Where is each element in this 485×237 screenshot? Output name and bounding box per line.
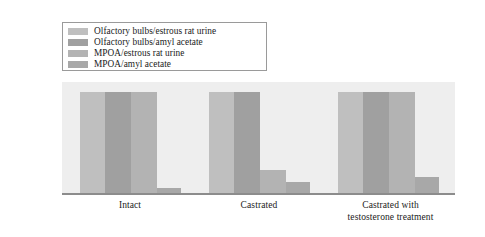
legend-swatch-icon-3 xyxy=(68,61,88,68)
x-axis-label-intact: Intact xyxy=(70,200,190,212)
bar-castrated-testosterone-mpoa-amyl-acetate xyxy=(415,177,439,193)
legend-item-olfactory-bulbs-estrous-rat-urine: Olfactory bulbs/estrous rat urine xyxy=(68,26,262,37)
bar-group-castrated-with-testosterone-treatment xyxy=(338,82,439,193)
bar-group-castrated xyxy=(209,82,310,193)
x-axis-label-intact-line-1: Intact xyxy=(70,200,190,212)
legend-swatch-icon-1 xyxy=(68,39,88,46)
bar-castrated-testosterone-olfactory-bulbs-estrous-rat-urine xyxy=(338,92,363,193)
x-axis-baseline xyxy=(62,193,455,195)
bar-intact-mpoa-estrous-rat-urine xyxy=(131,92,157,193)
bar-intact-olfactory-bulbs-estrous-rat-urine xyxy=(80,92,105,193)
legend: Olfactory bulbs/estrous rat urine Olfact… xyxy=(62,22,267,71)
legend-label-3: MPOA/amyl acetate xyxy=(94,59,171,70)
x-axis-label-castrated-testosterone-line-1: Castrated with xyxy=(328,200,453,212)
bar-intact-olfactory-bulbs-amyl-acetate xyxy=(105,92,131,193)
x-axis-label-castrated-line-1: Castrated xyxy=(199,200,319,212)
bar-castrated-olfactory-bulbs-estrous-rat-urine xyxy=(209,92,234,193)
x-axis-label-castrated: Castrated xyxy=(199,200,319,212)
bar-castrated-mpoa-amyl-acetate xyxy=(286,182,310,193)
x-axis-labels: Intact Castrated Castrated with testoste… xyxy=(62,200,455,230)
plot-area xyxy=(62,82,455,195)
x-axis-label-castrated-testosterone-line-2: testosterone treatment xyxy=(328,212,453,224)
legend-item-olfactory-bulbs-amyl-acetate: Olfactory bulbs/amyl acetate xyxy=(68,37,262,48)
bar-castrated-mpoa-estrous-rat-urine xyxy=(260,170,286,193)
legend-swatch-icon-0 xyxy=(68,28,88,35)
bar-chart-figure: Number of neural impulses xyxy=(0,0,485,237)
legend-label-2: MPOA/estrous rat urine xyxy=(94,48,184,59)
bars-container xyxy=(62,82,455,193)
legend-label-0: Olfactory bulbs/estrous rat urine xyxy=(94,26,216,37)
legend-swatch-icon-2 xyxy=(68,50,88,57)
legend-item-mpoa-amyl-acetate: MPOA/amyl acetate xyxy=(68,59,262,70)
y-axis-label-area: Number of neural impulses xyxy=(0,82,62,193)
bar-castrated-olfactory-bulbs-amyl-acetate xyxy=(234,92,260,193)
bar-castrated-testosterone-mpoa-estrous-rat-urine xyxy=(389,92,415,193)
bar-group-intact xyxy=(80,82,181,193)
legend-label-1: Olfactory bulbs/amyl acetate xyxy=(94,37,203,48)
bar-castrated-testosterone-olfactory-bulbs-amyl-acetate xyxy=(363,92,389,193)
x-axis-label-castrated-with-testosterone-treatment: Castrated with testosterone treatment xyxy=(328,200,453,223)
legend-item-mpoa-estrous-rat-urine: MPOA/estrous rat urine xyxy=(68,48,262,59)
